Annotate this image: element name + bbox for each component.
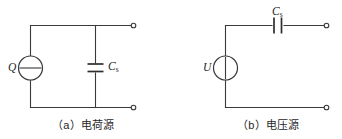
panel-a-caption: （a）电荷源	[52, 116, 114, 132]
panel-b-capacitor-label-main: C	[272, 5, 280, 17]
panel-b-circuit	[214, 18, 329, 110]
terminal-a-bottom	[131, 105, 136, 110]
panel-a-capacitor-label-main: C	[108, 60, 116, 72]
circuit-figure: Q Cs （a）电荷源 U Cs （b）电压源	[0, 0, 342, 139]
panel-a-capacitor-label-sub: s	[116, 65, 119, 74]
charge-source-label: Q	[8, 62, 16, 74]
terminal-b-bottom	[324, 105, 329, 110]
panel-b-capacitor-label: Cs	[272, 6, 283, 19]
panel-a-capacitor-label: Cs	[108, 61, 119, 74]
panel-b-capacitor-label-sub: s	[280, 10, 283, 19]
terminal-a-top	[131, 23, 136, 28]
terminal-b-top	[324, 23, 329, 28]
panel-b-caption: （b）电压源	[237, 116, 299, 132]
voltage-source-label: U	[203, 62, 211, 74]
